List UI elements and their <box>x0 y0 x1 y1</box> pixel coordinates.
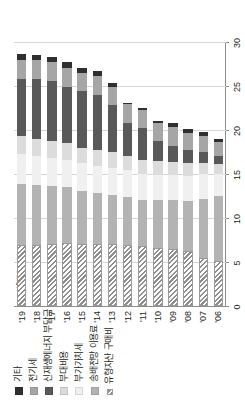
bar-segment <box>32 79 41 139</box>
bar-segment <box>108 244 117 306</box>
category-axis-tick-label: '11 <box>138 311 148 322</box>
bar-segment <box>17 154 26 184</box>
category-axis-line <box>14 306 226 307</box>
bar-segment <box>199 152 208 163</box>
category-axis-tick-label: '16 <box>62 311 72 323</box>
bar-segment <box>214 261 223 306</box>
bar-segment <box>77 244 86 306</box>
value-axis-tick <box>226 218 229 219</box>
bar-segment <box>138 160 147 174</box>
bar-segment <box>17 54 26 60</box>
bar-segment <box>214 156 223 164</box>
bar-stack <box>214 42 223 306</box>
bar-segment <box>93 150 102 166</box>
value-axis-tick <box>226 130 229 131</box>
bar-segment <box>32 61 41 79</box>
bar-segment <box>93 95 102 150</box>
bar-segment <box>47 244 56 306</box>
legend-swatch-icon <box>15 387 23 395</box>
bar-segment <box>123 105 132 123</box>
bar-segment <box>77 148 86 164</box>
bar-segment <box>93 244 102 306</box>
bar-segment <box>214 164 223 174</box>
bar-segment <box>108 105 117 152</box>
bar-segment <box>214 139 223 143</box>
category-axis-tick-label: '09 <box>168 311 178 323</box>
bar-stack <box>153 42 162 306</box>
chart-figure: 기타전기세신재생에너지 부담금부대비용부가가치세송배전망 이용료유형자산 구매비… <box>0 0 245 415</box>
legend-swatch-icon <box>75 387 83 395</box>
category-axis-tick-label: '13 <box>107 311 117 323</box>
bar-stack <box>199 42 208 306</box>
bar-segment <box>199 174 208 199</box>
bar-segment <box>108 152 117 168</box>
bar-segment <box>183 133 192 151</box>
gridline <box>14 130 226 131</box>
bar-segment <box>47 57 56 62</box>
value-axis-tick-label: 15 <box>232 170 242 180</box>
bar-stack <box>108 42 117 306</box>
bar-segment <box>17 79 26 136</box>
category-axis-tick-label: '07 <box>198 311 208 323</box>
bar-segment <box>77 163 86 190</box>
bar-segment <box>17 184 26 246</box>
bar-segment <box>32 245 41 306</box>
bar-segment <box>153 200 162 248</box>
bar-segment <box>77 191 86 244</box>
bar-segment <box>47 141 56 158</box>
value-axis-tick-label: 25 <box>232 82 242 92</box>
value-axis-tick <box>226 306 229 307</box>
legend-label: 부대비용 <box>60 351 69 382</box>
value-axis-tick-label: 30 <box>232 38 242 48</box>
bar-segment <box>123 156 132 171</box>
bar-segment <box>199 199 208 258</box>
category-axis-tick-label: '15 <box>77 311 87 323</box>
bar-segment <box>123 171 132 197</box>
bar-segment <box>168 200 177 248</box>
legend-label: 전기세 <box>29 359 38 382</box>
bar-segment <box>138 110 147 128</box>
bar-segment <box>62 87 71 143</box>
bar-stack <box>47 42 56 306</box>
bar-segment <box>168 123 177 127</box>
bar-segment <box>62 62 71 68</box>
value-axis-tick <box>226 174 229 175</box>
legend-swatch-icon <box>91 387 99 395</box>
bar-segment <box>199 163 208 174</box>
gridline <box>14 218 226 219</box>
bar-stack <box>77 42 86 306</box>
bar-segment <box>108 87 117 105</box>
bar-segment <box>32 139 41 157</box>
bar-stack <box>138 42 147 306</box>
bar-stack <box>93 42 102 306</box>
value-axis-tick <box>226 86 229 87</box>
legend-swatch-icon <box>30 387 38 395</box>
bar-segment <box>32 55 41 60</box>
category-axis-tick-label: '08 <box>183 311 193 323</box>
gridline <box>14 42 226 43</box>
bar-segment <box>138 200 147 247</box>
legend-label: 송배전망 이용료 <box>90 325 99 382</box>
bar-segment <box>93 71 102 76</box>
bar-stack <box>168 42 177 306</box>
legend-swatch-icon <box>45 387 53 395</box>
bar-segment <box>62 187 71 242</box>
bar-segment <box>153 141 162 160</box>
bar-segment <box>108 83 117 87</box>
category-axis-tick-label: '14 <box>92 311 102 323</box>
bar-segment <box>62 68 71 86</box>
bar-segment <box>17 136 26 154</box>
legend-label: 유형자산 구매비 <box>105 327 114 384</box>
bar-stack <box>32 42 41 306</box>
bar-stack <box>62 42 71 306</box>
bar-stack <box>17 42 26 306</box>
bar-segment <box>62 160 71 187</box>
bar-segment <box>168 127 177 145</box>
bar-segment <box>47 62 56 80</box>
bar-segment <box>123 123 132 156</box>
bar-segment <box>138 128 147 160</box>
bar-segment <box>183 251 192 306</box>
bar-segment <box>168 146 177 162</box>
bar-segment <box>138 174 147 200</box>
bar-segment <box>153 248 162 306</box>
